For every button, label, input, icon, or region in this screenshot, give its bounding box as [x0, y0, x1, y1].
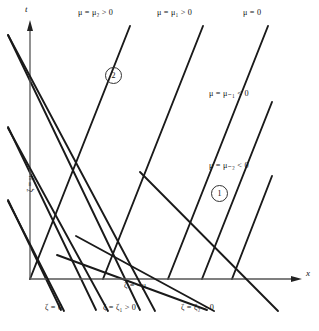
zeta-overlay-b	[8, 128, 108, 311]
x-axis-label: x	[306, 268, 310, 278]
t-axis-label: t	[25, 4, 28, 14]
zeta-overlay-d	[76, 236, 214, 311]
characteristic-diagram: μ = μ₂ > 0 μ = μ₁ > 0 μ = 0 μ = μ₋₁ < 0 …	[0, 0, 319, 331]
label-zeta-equals-mu: ζ = μ	[26, 176, 35, 193]
label-mu-negative-2: μ = μ₋₂ < 0	[209, 160, 249, 170]
zeta-overlay-c	[8, 201, 64, 311]
region-label-1: 1	[211, 185, 228, 202]
diagram-overlay	[0, 0, 319, 331]
label-zeta-1: ζ = ζ₁ > 0	[103, 303, 136, 312]
label-mu-1-positive: μ = μ₁ > 0	[157, 8, 192, 17]
label-mu-zero: μ = 0	[243, 8, 261, 17]
label-mu-negative-1: μ = μ₋₁ < 0	[209, 88, 249, 98]
label-zeta-equals-minus-mu: ζ = −μ	[124, 281, 146, 290]
region-label-2: 2	[105, 67, 122, 84]
label-zeta-zero: ζ = 0	[45, 303, 62, 312]
zeta-overlay-e	[140, 172, 278, 311]
label-mu-2-positive: μ = μ₂ > 0	[78, 8, 113, 17]
zeta-lines-overlay	[8, 35, 278, 311]
zeta-overlay-a	[8, 35, 155, 311]
label-zeta-2: ζ = ζ₂ > 0	[181, 303, 214, 312]
